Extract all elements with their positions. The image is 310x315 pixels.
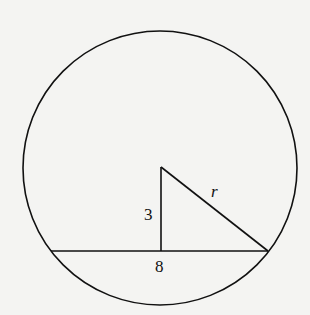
radius-segment (161, 167, 268, 251)
label-8: 8 (155, 257, 164, 276)
label-3: 3 (144, 205, 153, 224)
label-r: r (211, 182, 218, 201)
circle-chord-diagram: 3 r 8 (0, 0, 310, 315)
